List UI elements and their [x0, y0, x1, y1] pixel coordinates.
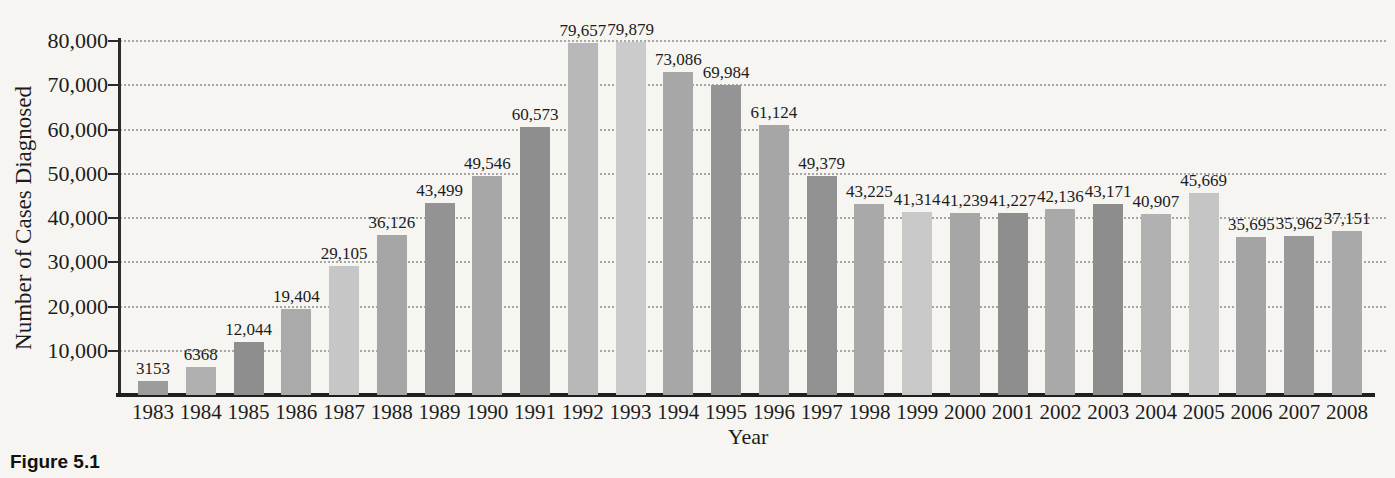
bar-value-label: 35,962 [1276, 215, 1323, 233]
bar-1985 [234, 342, 264, 395]
bar-value-label: 49,546 [464, 155, 511, 173]
bar-value-label: 49,379 [798, 155, 845, 173]
bar-value-label: 19,404 [273, 288, 320, 306]
y-tick-mark [108, 40, 118, 42]
bar-value-label: 79,657 [559, 22, 606, 40]
x-tick-label: 1985 [228, 402, 270, 423]
bar-1999 [902, 212, 932, 395]
bar-value-label: 60,573 [512, 106, 559, 124]
bar-value-label: 6368 [184, 346, 218, 364]
x-tick-label: 1990 [466, 402, 508, 423]
bar-value-label: 43,171 [1085, 183, 1132, 201]
bar-value-label: 29,105 [321, 245, 368, 263]
x-tick-label: 2008 [1326, 402, 1368, 423]
y-tick-label: 80,000 [0, 30, 108, 52]
bar-value-label: 61,124 [751, 104, 798, 122]
y-tick-mark [108, 173, 118, 175]
x-tick-label: 1989 [419, 402, 461, 423]
y-tick-mark [108, 261, 118, 263]
bar-1992 [568, 43, 598, 395]
x-tick-label: 2005 [1183, 402, 1225, 423]
bar-value-label: 35,695 [1228, 216, 1275, 234]
x-tick-label: 1995 [705, 402, 747, 423]
bar-2003 [1093, 204, 1123, 395]
y-tick-mark [108, 350, 118, 352]
bar-1988 [377, 235, 407, 395]
x-tick-label: 1993 [610, 402, 652, 423]
bar-value-label: 37,151 [1324, 210, 1371, 228]
bar-1990 [472, 176, 502, 395]
bar-2007 [1284, 236, 1314, 395]
bar-value-label: 36,126 [368, 214, 415, 232]
x-tick-label: 2006 [1230, 402, 1272, 423]
x-tick-label: 2001 [992, 402, 1034, 423]
x-tick-label: 1984 [180, 402, 222, 423]
bar-1995 [711, 85, 741, 395]
x-tick-label: 1992 [562, 402, 604, 423]
bar-value-label: 12,044 [225, 321, 272, 339]
x-tick-label: 2007 [1278, 402, 1320, 423]
bar-1993 [616, 42, 646, 395]
x-tick-label: 1999 [896, 402, 938, 423]
bar-value-label: 43,499 [416, 182, 463, 200]
bar-value-label: 41,314 [894, 191, 941, 209]
x-tick-label: 2004 [1135, 402, 1177, 423]
x-tick-label: 1996 [753, 402, 795, 423]
x-tick-label: 2002 [1039, 402, 1081, 423]
x-tick-label: 1994 [657, 402, 699, 423]
bar-1986 [281, 309, 311, 395]
gridline [120, 40, 1386, 42]
gridline [120, 84, 1386, 86]
bar-2000 [950, 213, 980, 395]
bar-value-label: 69,984 [703, 64, 750, 82]
figure-caption: Figure 5.1 [10, 451, 100, 473]
bar-2006 [1236, 237, 1266, 395]
y-tick-mark [108, 306, 118, 308]
x-tick-label: 1997 [801, 402, 843, 423]
x-tick-label: 1983 [132, 402, 174, 423]
bar-2001 [998, 213, 1028, 395]
bar-value-label: 40,907 [1133, 193, 1180, 211]
bar-value-label: 41,227 [989, 192, 1036, 210]
plot-area: 10,00020,00030,00040,00050,00060,00070,0… [0, 0, 1395, 478]
x-tick-label: 1988 [371, 402, 413, 423]
bar-1989 [425, 203, 455, 395]
bar-2008 [1332, 231, 1362, 395]
gridline [120, 129, 1386, 131]
x-tick-label: 1986 [275, 402, 317, 423]
bar-2002 [1045, 209, 1075, 395]
y-axis-line [118, 38, 121, 397]
x-tick-label: 1998 [848, 402, 890, 423]
x-tick-label: 1991 [514, 402, 556, 423]
y-tick-mark [108, 129, 118, 131]
bar-1991 [520, 127, 550, 395]
bar-value-label: 3153 [136, 360, 170, 378]
x-axis-title: Year [728, 424, 769, 450]
y-tick-mark [108, 84, 118, 86]
x-tick-label: 1987 [323, 402, 365, 423]
bar-value-label: 42,136 [1037, 188, 1084, 206]
bar-value-label: 79,879 [607, 21, 654, 39]
bar-value-label: 41,239 [942, 192, 989, 210]
bar-value-label: 73,086 [655, 51, 702, 69]
bar-1997 [807, 176, 837, 395]
bar-1998 [854, 204, 884, 395]
bar-2005 [1189, 193, 1219, 395]
bar-1984 [186, 367, 216, 395]
bar-2004 [1141, 214, 1171, 395]
bar-value-label: 43,225 [846, 183, 893, 201]
figure-page: 10,00020,00030,00040,00050,00060,00070,0… [0, 0, 1395, 478]
bar-1994 [663, 72, 693, 395]
x-tick-label: 2003 [1087, 402, 1129, 423]
y-tick-mark [108, 217, 118, 219]
y-axis-title: Number of Cases Diagnosed [11, 86, 37, 350]
bar-1987 [329, 266, 359, 395]
bar-value-label: 45,669 [1180, 172, 1227, 190]
x-tick-label: 2000 [944, 402, 986, 423]
bar-1996 [759, 125, 789, 395]
bar-1983 [138, 381, 168, 395]
